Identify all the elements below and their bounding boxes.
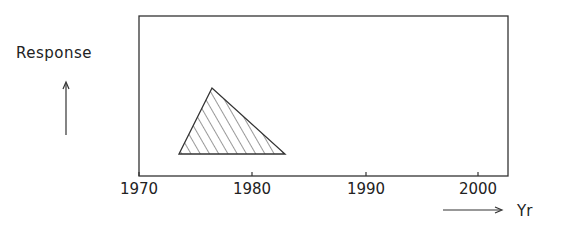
up-arrow-icon <box>63 82 69 135</box>
tick-label-1990: 1990 <box>347 180 385 198</box>
response-triangle <box>179 88 285 154</box>
tick-label-1980: 1980 <box>233 180 271 198</box>
x-axis-label: Yr <box>517 202 532 220</box>
tick-label-2000: 2000 <box>459 180 497 198</box>
right-arrow-icon <box>443 207 502 213</box>
tick-label-1970: 1970 <box>120 180 158 198</box>
